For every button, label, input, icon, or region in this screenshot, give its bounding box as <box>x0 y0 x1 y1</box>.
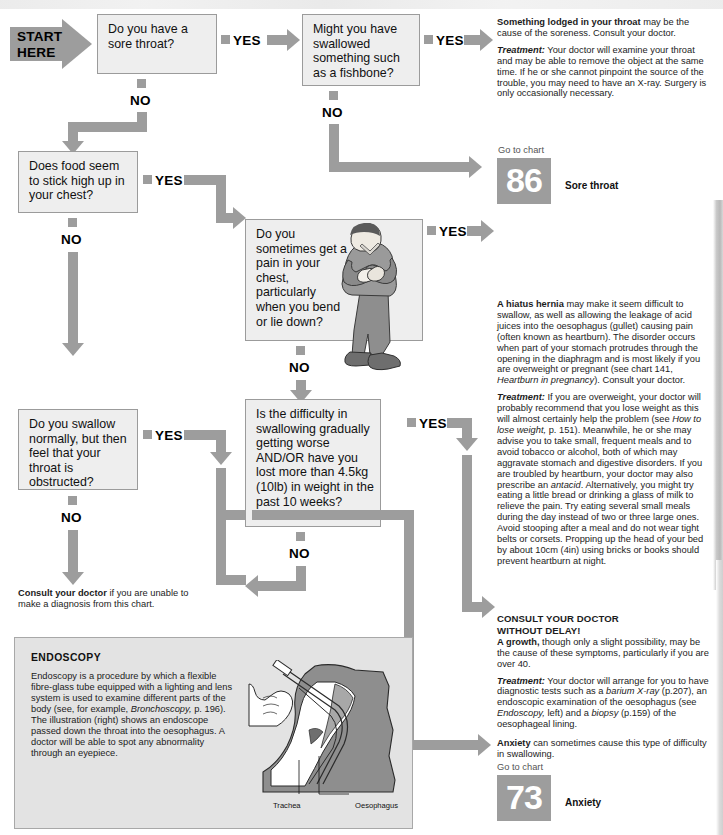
page-edge-shadow-right <box>713 200 723 590</box>
advice-growth-t3: left) and a <box>545 708 592 718</box>
connector-q2-no-elbow <box>329 162 469 172</box>
yes-label-q4: YES <box>439 224 467 239</box>
yes-marker-q6 <box>407 418 416 427</box>
question-text: Might you have swallowed something such … <box>313 22 413 80</box>
connector-q5-no-vert <box>68 530 78 572</box>
advice-growth-i3: biopsy <box>591 708 618 718</box>
connector-anxiety-h <box>404 740 478 750</box>
advice-hernia-tail: ). Consult your doctor. <box>594 375 685 385</box>
advice-consult-lead: Consult your doctor <box>18 588 107 598</box>
start-arrow-head-icon <box>62 19 92 69</box>
advice-anxiety-lead: Anxiety <box>497 738 531 748</box>
question-box-worsening-or-weight-loss[interactable]: Is the difficulty in swallowing graduall… <box>245 399 381 527</box>
question-box-food-sticks[interactable]: Does food seem to stick high up in your … <box>18 151 138 213</box>
connector-q1-no-elbow2 <box>68 122 94 132</box>
no-marker-q4 <box>296 346 305 355</box>
no-label-q2: NO <box>322 105 343 120</box>
figure-label-trachea: Trachea <box>273 801 301 810</box>
no-marker-q1 <box>137 79 146 88</box>
arrowhead-q6-yes-icon <box>456 438 478 451</box>
scan-band-top <box>0 0 723 9</box>
connector-q3-no-vert <box>68 252 78 343</box>
no-label-q4: NO <box>289 360 310 375</box>
arrowhead-q5-no-icon <box>62 572 84 585</box>
advice-growth: CONSULT YOUR DOCTOR WITHOUT DELAY! A gro… <box>497 613 713 736</box>
arrowhead-q2-yes-icon <box>480 29 493 51</box>
connector-q3-yes-v <box>216 175 226 213</box>
question-box-throat-obstructed[interactable]: Do you swallow normally, but then feel t… <box>18 409 138 490</box>
connector-q6-no-elbow <box>258 581 306 591</box>
question-text: Do you swallow normally, but then feel t… <box>29 417 131 490</box>
arrowhead-q1-yes-icon <box>287 29 300 51</box>
yes-marker-q1 <box>221 35 230 44</box>
advice-growth-treatment-label: Treatment: <box>497 676 545 686</box>
connector-q4-no-vert <box>296 380 306 390</box>
advice-hernia-t3: . Alternatively, you might try eating a … <box>497 480 703 566</box>
yes-label-q2: YES <box>436 33 464 48</box>
yes-label-q5: YES <box>155 428 183 443</box>
arrowhead-anxiety-icon <box>478 734 491 756</box>
arrowhead-q6-yes-icon2 <box>482 596 495 618</box>
start-here-arrow: START HERE <box>10 19 92 69</box>
advice-hernia-i2: antacid <box>551 480 581 490</box>
illustration-person-with-chest-pain <box>330 222 416 374</box>
chart-number-73[interactable]: 73 <box>497 775 551 821</box>
advice-hernia-italic: Heartburn in pregnancy <box>497 375 594 385</box>
start-label-line1: START <box>17 29 62 44</box>
connector-q1-yes <box>267 35 287 45</box>
yes-marker-q5 <box>143 430 152 439</box>
yes-label-q6: YES <box>419 416 447 431</box>
no-label-q1: NO <box>130 93 151 108</box>
chart-name-73: Anxiety <box>565 797 601 808</box>
no-label-q3: NO <box>61 232 82 247</box>
question-box-swallowed-object[interactable]: Might you have swallowed something such … <box>302 14 420 86</box>
diagnostic-flowchart-page: START HERE Do you have a sore throat? YE… <box>0 0 723 835</box>
advice-growth-i2: Endoscopy, <box>497 708 545 718</box>
advice-hernia-treatment-label: Treatment: <box>497 392 545 402</box>
connector-q2-yes <box>464 35 480 45</box>
chart-name-86: Sore throat <box>565 180 618 191</box>
no-marker-q3 <box>68 218 77 227</box>
advice-hiatus-hernia: A hiatus hernia may make it seem difficu… <box>497 299 713 573</box>
connector-q6-yes-v <box>462 418 472 438</box>
arrowhead-q6-no-icon <box>245 575 258 597</box>
advice-hernia-rest: may make it seem difficult to swallow, a… <box>497 299 700 374</box>
advice-growth-lead: A growth, <box>497 637 540 647</box>
illustration-endoscopy-head-section <box>243 660 403 800</box>
connector-q1-no-elbow <box>90 122 147 132</box>
arrowhead-q2-no-icon <box>469 156 482 178</box>
figure-label-oesophagus: Oesophagus <box>355 801 398 810</box>
no-marker-q2 <box>329 91 338 100</box>
no-marker-q5 <box>68 496 77 505</box>
endoscopy-info-panel: ENDOSCOPY Endoscopy is a procedure by wh… <box>14 637 413 829</box>
goto-chart-label-73: Go to chart <box>497 762 543 772</box>
connector-q6-yes-elbow <box>462 602 482 612</box>
endoscopy-title: ENDOSCOPY <box>31 652 101 663</box>
chart-number-86[interactable]: 86 <box>497 158 551 204</box>
advice-growth-i1: barium X-ray <box>606 686 659 696</box>
arrowhead-q5-yes-icon <box>210 452 232 465</box>
connector-return-loop-h <box>216 575 246 585</box>
connector-anxiety-top <box>252 510 414 520</box>
yes-label-q1: YES <box>233 33 261 48</box>
connector-q6-yes-v2 <box>462 455 472 612</box>
no-marker-q6 <box>296 532 305 541</box>
question-text: Is the difficulty in swallowing graduall… <box>256 407 374 509</box>
question-box-sore-throat[interactable]: Do you have a sore throat? <box>97 14 217 74</box>
yes-label-q3: YES <box>155 173 183 188</box>
advice-consult-doctor: Consult your doctor if you are unable to… <box>18 588 203 616</box>
connector-q4-yes <box>467 226 481 236</box>
advice-anxiety: Anxiety can sometimes cause this type of… <box>497 738 713 760</box>
yes-marker-q2 <box>424 35 433 44</box>
advice-growth-headline-line2: WITHOUT DELAY! <box>497 625 581 636</box>
question-text: Does food seem to stick high up in your … <box>29 159 131 203</box>
connector-q5-yes-v <box>216 430 226 452</box>
yes-marker-q3 <box>143 175 152 184</box>
advice-growth-headline-line1: CONSULT YOUR DOCTOR <box>497 613 619 624</box>
yes-marker-q4 <box>427 226 436 235</box>
advice-lodged-lead: Something lodged in your throat <box>497 17 641 27</box>
advice-lodged-treatment-label: Treatment: <box>497 45 545 55</box>
arrowhead-q4-yes-icon <box>481 220 494 242</box>
endoscopy-body-i1: Bronchoscopy, <box>131 704 192 714</box>
advice-lodged-object: Something lodged in your throat may be t… <box>497 17 712 105</box>
